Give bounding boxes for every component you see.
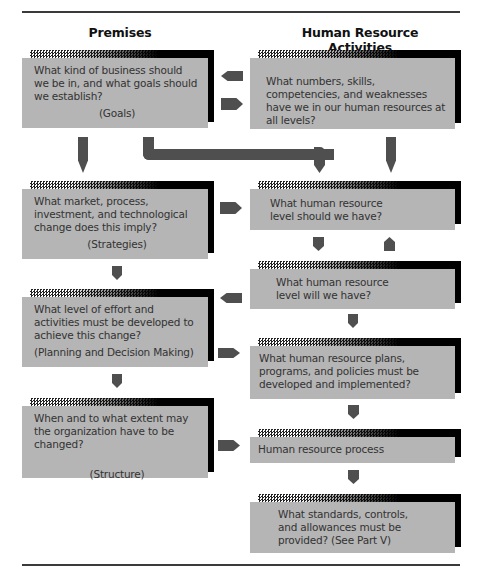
box-text: What numbers, skills, competencies, and … — [266, 75, 445, 126]
box-face: What market, process, investment, and te… — [22, 189, 208, 259]
hr-inventory-box: What numbers, skills, competencies, and … — [250, 58, 455, 129]
box-text: What kind of business should we be in, a… — [34, 64, 197, 102]
box-text: When and to what extent may the organiza… — [34, 412, 188, 450]
arrow-right-icon — [218, 440, 240, 451]
box-face: Human resource process — [250, 437, 455, 463]
box-face: What human resource level will we have? — [250, 269, 455, 309]
hr-plans-box: What human resource plans, programs, and… — [250, 346, 455, 399]
premises-heading: Premises — [40, 25, 200, 40]
top-rule — [22, 11, 460, 13]
arrow-down-icon — [348, 470, 359, 484]
arrow-right-icon — [218, 348, 240, 358]
box-shadow — [208, 296, 214, 361]
box-shadow — [455, 188, 461, 224]
box-face: What human resource level should we have… — [250, 189, 455, 230]
box-shadow — [208, 405, 214, 472]
box-shadow — [455, 345, 461, 393]
arrow-down-icon — [78, 137, 88, 173]
strategies-box: What market, process, investment, and te… — [22, 189, 208, 259]
connector-path — [143, 137, 334, 160]
box-text: What standards, controls, and allowances… — [278, 508, 408, 546]
box-text: Human resource process — [258, 443, 384, 455]
box-face: What level of effort and activities must… — [22, 297, 208, 367]
box-label: (Planning and Decision Making) — [34, 346, 200, 359]
box-face: What standards, controls, and allowances… — [250, 502, 455, 553]
box-text: What level of effort and activities must… — [34, 303, 194, 341]
arrow-down-icon — [348, 405, 359, 419]
bottom-rule — [22, 564, 460, 566]
box-text: What human resource level should we have… — [270, 197, 383, 222]
hr-standards-box: What standards, controls, and allowances… — [250, 502, 455, 553]
box-label: (Structure) — [34, 468, 200, 481]
goals-box: What kind of business should we be in, a… — [22, 58, 208, 128]
box-face: What human resource plans, programs, and… — [250, 346, 455, 399]
box-face: What numbers, skills, competencies, and … — [250, 58, 455, 129]
box-text: What market, process, investment, and te… — [34, 195, 187, 233]
arrow-down-icon — [314, 150, 325, 173]
box-text: What human resource plans, programs, and… — [259, 352, 419, 390]
box-label: (Strategies) — [34, 238, 200, 251]
arrow-right-icon — [221, 98, 243, 110]
planning-box: What level of effort and activities must… — [22, 297, 208, 367]
box-shadow — [208, 57, 214, 122]
hr-level-will-box: What human resource level will we have? — [250, 269, 455, 309]
box-shadow — [455, 436, 461, 457]
box-shadow — [208, 188, 214, 253]
arrow-down-icon — [112, 374, 122, 388]
box-shadow — [455, 501, 461, 547]
arrow-up-icon — [384, 237, 395, 251]
arrow-down-icon — [348, 314, 358, 328]
arrow-down-icon — [313, 237, 324, 251]
box-label: (Goals) — [34, 107, 200, 120]
arrow-down-icon — [386, 137, 396, 173]
box-text: What human resource level will we have? — [276, 276, 389, 301]
arrow-left-icon — [220, 293, 242, 303]
box-face: What kind of business should we be in, a… — [22, 58, 208, 128]
arrow-down-icon — [112, 266, 122, 280]
box-shadow — [455, 268, 461, 303]
hr-level-should-box: What human resource level should we have… — [250, 189, 455, 230]
structure-box: When and to what extent may the organiza… — [22, 406, 208, 478]
hr-process-box: Human resource process — [250, 437, 455, 463]
arrow-right-icon — [220, 202, 242, 214]
box-shadow — [455, 57, 461, 123]
box-face: When and to what extent may the organiza… — [22, 406, 208, 478]
arrow-left-icon — [221, 71, 243, 81]
